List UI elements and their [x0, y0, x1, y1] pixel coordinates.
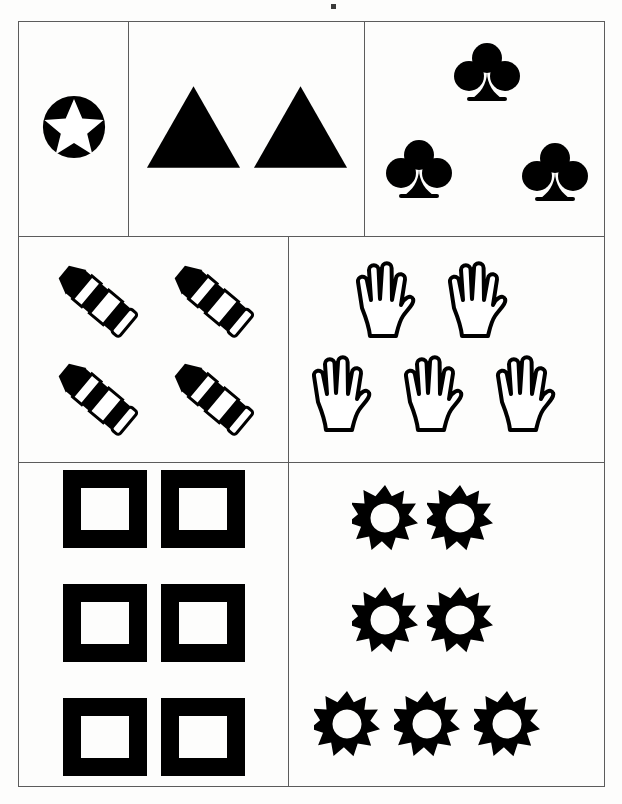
scan-artifact-speck [331, 4, 336, 9]
crayon-icon [48, 357, 144, 441]
hollow-square-icon [161, 584, 245, 666]
item-group-crayon [39, 259, 269, 441]
worksheet-row-1 [19, 22, 604, 237]
sun-burst-icon [427, 485, 493, 555]
triangle-icon [145, 84, 242, 174]
item-group-sun [302, 485, 592, 765]
worksheet-row-3 [19, 463, 604, 786]
cell-club-group[interactable] [364, 22, 604, 236]
worksheet-grid [18, 21, 605, 787]
star-in-circle-icon [37, 90, 111, 168]
hand-icon [485, 350, 557, 444]
item-group-club [369, 34, 601, 224]
crayon-icon [164, 259, 260, 343]
club-icon [385, 139, 453, 205]
club-icon [453, 42, 521, 108]
hand-icon [437, 256, 509, 350]
club-icon [521, 142, 589, 208]
hollow-square-icon [63, 698, 147, 780]
hand-icon [345, 256, 417, 350]
sun-burst-icon [394, 691, 460, 761]
hand-icon [301, 350, 373, 444]
cell-sun-group[interactable] [288, 463, 604, 786]
item-group-square [59, 470, 249, 780]
cell-triangle-group[interactable] [128, 22, 364, 236]
sun-burst-icon [427, 587, 493, 657]
cell-square-group[interactable] [19, 463, 288, 786]
sun-burst-icon [352, 485, 418, 555]
crayon-icon [164, 357, 260, 441]
sun-burst-icon [314, 691, 380, 761]
triangle-icon [252, 84, 349, 174]
hollow-square-icon [63, 584, 147, 666]
hollow-square-icon [161, 470, 245, 552]
item-group-triangle [145, 84, 349, 174]
worksheet-row-2 [19, 237, 604, 463]
crayon-icon [48, 259, 144, 343]
hollow-square-icon [63, 470, 147, 552]
cell-star-group[interactable] [19, 22, 128, 236]
sun-burst-icon [352, 587, 418, 657]
item-group-hand [297, 254, 597, 446]
hand-icon [393, 350, 465, 444]
item-group-star [19, 90, 128, 168]
hollow-square-icon [161, 698, 245, 780]
sun-burst-icon [474, 691, 540, 761]
worksheet-page [0, 0, 622, 804]
cell-crayon-group[interactable] [19, 237, 288, 462]
cell-hand-group[interactable] [288, 237, 604, 462]
